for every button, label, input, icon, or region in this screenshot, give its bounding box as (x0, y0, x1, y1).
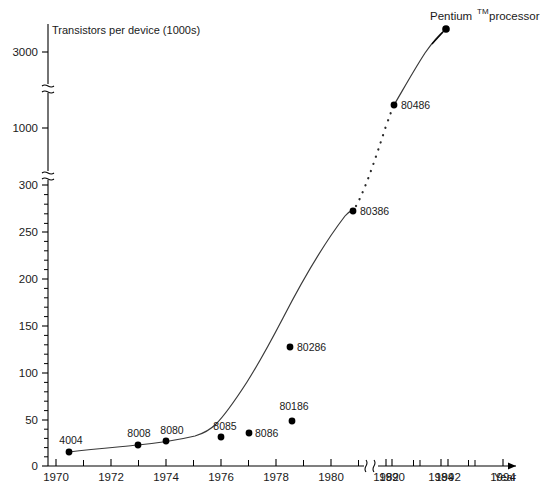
label-8080: 8080 (160, 424, 184, 436)
point-8080[interactable] (163, 438, 170, 445)
y-axis-break-lower (42, 172, 54, 180)
y-label-3000: 3000 (12, 46, 38, 58)
x-label-1974: 1974 (153, 471, 179, 483)
x-axis-end-label: Year (494, 471, 517, 483)
label-8086: 8086 (255, 427, 279, 439)
y-label-200: 200 (19, 273, 38, 285)
pentium-label-tm: TM (477, 7, 489, 16)
label-8008: 8008 (127, 427, 151, 439)
point-80486[interactable] (391, 102, 398, 109)
x-label-1992: 1992 (435, 471, 461, 483)
x-label-1978: 1978 (263, 471, 289, 483)
y-label-250: 250 (19, 226, 38, 238)
point-80186[interactable] (289, 418, 296, 425)
point-pentium[interactable] (442, 25, 450, 33)
y-label-50: 50 (25, 414, 38, 426)
y-label-150: 150 (19, 320, 38, 332)
point-8008[interactable] (135, 442, 142, 449)
label-4004: 4004 (59, 434, 83, 446)
y-axis-title: Transistors per device (1000s) (52, 24, 200, 36)
y-label-300: 300 (19, 179, 38, 191)
curve-early-segment (69, 210, 353, 452)
point-8086[interactable] (246, 430, 253, 437)
y-label-100: 100 (19, 367, 38, 379)
transistor-count-chart: 3000 1000 300 250 200 150 100 50 0 Trans… (0, 0, 543, 503)
x-label-1970: 1970 (43, 471, 69, 483)
x-axis-post-break: 1990 1992 1994 Year (379, 459, 516, 483)
curve-final-segment (394, 30, 445, 105)
x-label-1972: 1972 (98, 471, 124, 483)
x-label-1980: 1980 (318, 471, 344, 483)
x-label-1976: 1976 (208, 471, 234, 483)
y-label-1000: 1000 (12, 122, 38, 134)
y-axis-break-upper (42, 85, 54, 93)
label-80286: 80286 (297, 341, 326, 353)
x-label-1990: 1990 (379, 471, 405, 483)
y-axis: 3000 1000 300 250 200 150 100 50 0 (12, 24, 54, 472)
point-80286[interactable] (287, 344, 294, 351)
point-4004[interactable] (66, 449, 73, 456)
data-points (66, 25, 450, 455)
curve-dotted-break-segment (356, 107, 393, 206)
x-axis-arrowhead (508, 463, 516, 470)
pentium-label-tail: processor (489, 10, 540, 22)
data-point-labels: 4004 8008 8080 8085 8086 80186 80286 803… (59, 99, 430, 446)
point-80386[interactable] (350, 208, 357, 215)
label-80386: 80386 (360, 205, 389, 217)
point-8085[interactable] (218, 434, 225, 441)
label-80486: 80486 (401, 99, 430, 111)
label-8085: 8085 (213, 420, 237, 432)
y-label-0: 0 (32, 460, 38, 472)
label-80186: 80186 (279, 400, 308, 412)
pentium-label-main: Pentium (430, 10, 472, 22)
pentium-leader-line (432, 32, 443, 44)
